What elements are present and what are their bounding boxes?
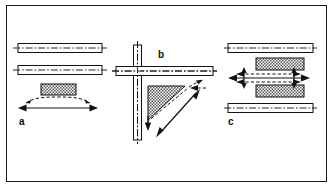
panel-c-bar-top <box>224 44 317 53</box>
panel-a-group <box>13 44 107 112</box>
panel-c-weld-block-upper <box>256 58 304 70</box>
diagram-drawing <box>0 0 333 187</box>
panel-b-top-right-arrow <box>190 85 206 91</box>
panel-a-weld-block <box>41 84 76 95</box>
panel-c-group <box>224 44 317 113</box>
panel-b-gusset-triangle <box>148 86 185 120</box>
panel-label-a: a <box>19 117 25 127</box>
panel-a-bar-bottom <box>13 66 107 75</box>
panel-label-c: c <box>228 117 234 127</box>
panel-a-bar-top <box>13 44 107 53</box>
panel-a-dimension-arrow <box>18 105 98 112</box>
panel-a-distortion-arrow <box>26 97 90 104</box>
figure-canvas: a b c <box>0 0 333 187</box>
panel-label-b: b <box>158 50 164 60</box>
panel-c-bar-bottom <box>224 104 317 113</box>
panel-b-group <box>112 41 217 144</box>
panel-c-weld-block-lower <box>256 85 304 97</box>
